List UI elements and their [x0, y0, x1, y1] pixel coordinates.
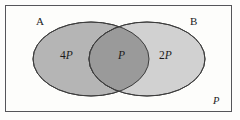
set-b-only-symbol: P: [165, 49, 172, 61]
intersection-value: P: [118, 50, 125, 62]
universe-label: P: [213, 96, 219, 107]
set-a-only-symbol: P: [66, 49, 73, 61]
set-b-label: B: [190, 16, 197, 27]
set-a-only-value: 4P: [60, 50, 73, 62]
set-a-label: A: [36, 16, 44, 27]
set-b-only-value: 2P: [159, 50, 172, 62]
venn-diagram-figure: A B 4P P 2P P: [0, 0, 240, 120]
